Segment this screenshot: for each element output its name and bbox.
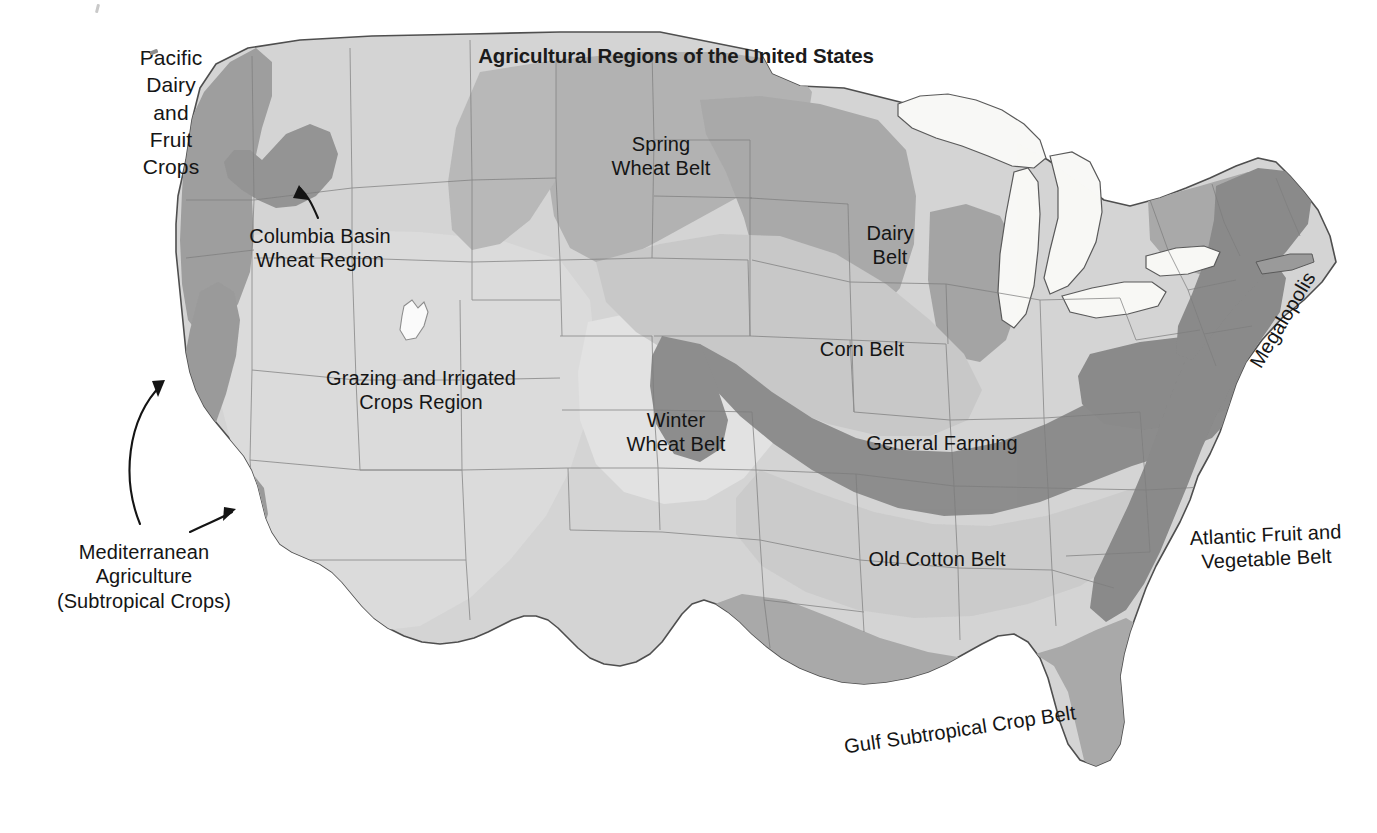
region-label-corn-belt: Corn Belt [820,338,904,361]
region-label-old-cotton-belt: Old Cotton Belt [868,548,1005,571]
region-label-atlantic-fruit-and-vegetable-belt: Atlantic Fruit and Vegetable Belt [1189,519,1343,574]
mediterranean-socal-arrowhead [223,507,236,521]
page-title: Agricultural Regions of the United State… [478,44,874,68]
agricultural-regions-map-figure: Agricultural Regions of the United State… [0,0,1377,833]
region-label-columbia-basin-wheat-region: Columbia Basin Wheat Region [249,224,390,273]
region-label-winter-wheat-belt: Winter Wheat Belt [627,408,726,457]
region-label-pacific-dairy-and-fruit-crops: Pacific Dairy and Fruit Crops [140,44,203,180]
region-label-mediterranean-agriculture: Mediterranean Agriculture (Subtropical C… [57,540,231,613]
region-label-general-farming: General Farming [866,432,1018,455]
mediterranean-central-valley-pointer-arrow [130,384,162,524]
region-label-dairy-belt: Dairy Belt [866,221,913,270]
region-label-grazing-and-irrigated-crops-region: Grazing and Irrigated Crops Region [326,366,516,415]
region-label-spring-wheat-belt: Spring Wheat Belt [612,132,711,181]
